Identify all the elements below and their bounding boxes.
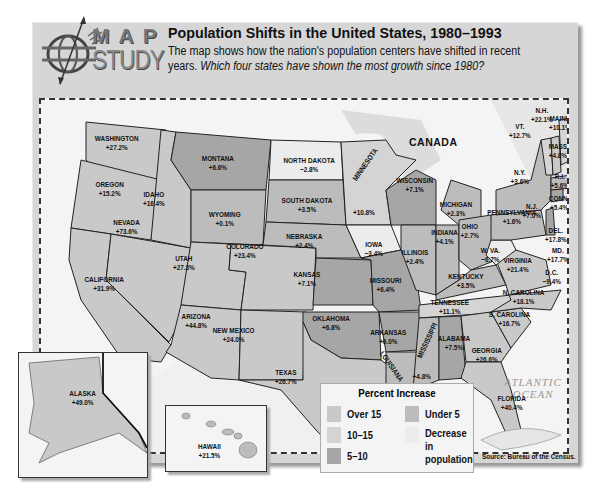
alaska-map-graphic [19,353,147,477]
source-credit: Source: Bureau of the Census. [482,452,576,461]
state-label-illinois: ILLINOIS+2.4% [401,248,428,266]
state-label-south-dakota: SOUTH DAKOTA+3.5% [281,196,332,214]
legend-swatch [405,406,419,422]
state-label-idaho: IDAHO+16.4% [143,190,165,208]
state-label-vermont: VT.+12.7% [509,122,531,140]
legend-item-under-5: Under 5 [405,406,466,422]
state-label-indiana: INDIANA+4.1% [431,228,458,246]
state-label-virginia: VIRGINIA+21.4% [504,256,532,274]
legend-item-over-15: Over 15 [327,406,387,422]
state-label-wisconsin: WISCONSIN+7.1% [396,176,433,194]
legend-item-10-15: 10–15 [327,427,378,443]
state-label-hawaii: HAWAII+21.5% [198,442,221,460]
state-label-maine: MAINE+10.1% [549,114,569,132]
canada-label: CANADA [409,136,458,148]
state-label-north-dakota: NORTH DAKOTA−2.8% [284,156,335,174]
state-label-kansas: KANSAS+7.1% [293,270,320,288]
state-label-california: CALIFORNIA+31.9% [84,275,123,293]
legend-swatch [327,406,341,422]
legend-item-decrease: Decrease in population [405,427,485,466]
state-label-oklahoma: OKLAHOMA+6.8% [312,314,350,332]
state-label-ohio: OHIO+2.7% [461,222,479,240]
state-label-florida: FLORIDA+40.4% [498,394,526,412]
state-label-new-jersey: N.J.+7.0% [523,202,541,220]
state-label-missouri: MISSOURI+6.4% [370,276,402,294]
legend-item-5-10: 5–10 [327,448,371,464]
state-label-texas: TEXAS+26.7% [275,368,297,386]
state-label-minnesota-value: +10.8% [353,208,375,217]
alaska-inset: ALASKA+49.0% [18,352,148,478]
state-label-kentucky: KENTUCKY+3.5% [448,272,483,290]
state-label-new-york: N.Y.+3.6% [511,168,529,186]
state-label-massachusetts: MASS+4.8% [549,142,567,160]
description-question: Which four states have shown the most gr… [200,59,484,73]
state-label-utah: UTAH+27.3% [173,254,195,272]
state-label-mississippi-value: +4.8% [413,372,431,381]
state-label-maryland: MD.+17.7% [547,246,569,264]
state-label-alabama: ALABAMA+7.5% [438,334,470,352]
map-legend: Percent Increase Over 15 10–15 5–10 Unde… [320,383,474,473]
state-label-connecticut: CONN.+5.4% [549,194,569,212]
state-label-oregon: OREGON+15.2% [96,180,124,198]
state-label-delaware: DEL.+17.8% [545,226,567,244]
legend-title: Percent Increase [330,387,464,399]
state-label-south-carolina: S. CAROLINA+16.7% [489,310,530,328]
state-label-washington: WASHINGTON+27.2% [95,134,139,152]
hawaii-map-graphic [166,406,266,471]
state-label-iowa: IOWA−3.4% [365,240,383,258]
state-label-alaska: ALASKA+49.0% [69,389,96,407]
state-label-michigan: MICHIGAN+2.3% [440,200,472,218]
state-label-montana: MONTANA+6.6% [202,154,234,172]
legend-swatch [327,427,341,443]
state-label-tennessee: TENNESSEE+11.1% [430,298,469,316]
state-label-new-mexico: NEW MEXICO+24.0% [213,326,255,344]
hawaii-inset: HAWAII+21.5% [165,405,267,472]
logo-study-text: STUDY [92,44,164,76]
page-title: Population Shifts in the United States, … [168,24,502,42]
legend-swatch [327,448,341,464]
state-label-georgia: GEORGIA+26.6% [472,346,502,364]
state-label-arkansas: ARKANSAS+6.0% [370,328,406,346]
state-label-dc: D.C.−9.4% [543,268,561,286]
legend-swatch [405,427,419,443]
map-description: The map shows how the nation's populatio… [168,44,538,74]
state-label-arizona: ARIZONA+44.8% [182,312,211,330]
state-label-nevada: NEVADA+73.6% [113,218,139,236]
state-label-rhode-island: R.I.+5.6% [551,172,569,190]
state-label-north-carolina: N. CAROLINA+18.1% [503,288,545,306]
state-label-wyoming: WYOMING+0.1% [209,210,241,228]
state-label-nebraska: NEBRASKA+2.4% [286,232,322,250]
state-label-colorado: COLORADO+23.4% [226,242,263,260]
state-label-west-virginia: W. VA.−6.7% [481,246,500,264]
